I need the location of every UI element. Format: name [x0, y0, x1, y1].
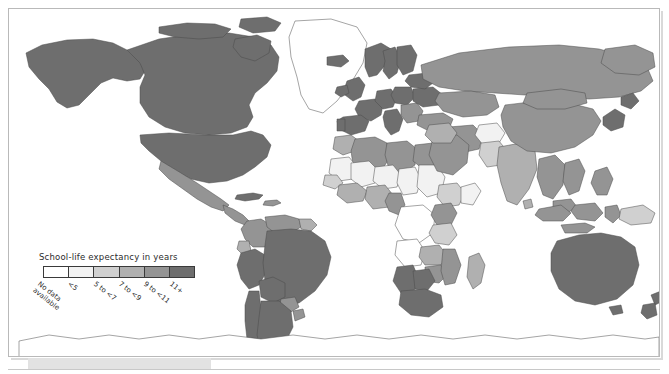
region-kazakhstan[interactable]	[435, 91, 499, 117]
region-kenya-uganda[interactable]	[431, 203, 457, 225]
region-drc[interactable]	[395, 205, 435, 243]
legend-label-group: No dataavailable <5 5 to <7 7 to <9 9 to…	[43, 278, 195, 324]
region-new-zealand-south[interactable]	[641, 303, 657, 319]
region-new-zealand-north[interactable]	[651, 291, 660, 305]
region-finland[interactable]	[397, 45, 417, 75]
region-tasmania[interactable]	[609, 305, 623, 315]
region-australia[interactable]	[551, 233, 639, 305]
region-guyanas[interactable]	[299, 219, 317, 231]
legend-swatch-no-data[interactable]	[44, 267, 69, 277]
region-arctic-islands[interactable]	[159, 23, 231, 39]
region-alaska[interactable]	[26, 39, 145, 108]
region-iraq-syria[interactable]	[425, 123, 457, 143]
legend-label-11-plus: 11+	[168, 280, 185, 295]
region-south-africa[interactable]	[399, 289, 443, 317]
region-poland[interactable]	[391, 87, 415, 105]
bottom-rule	[8, 369, 660, 370]
region-papua-new-guinea[interactable]	[619, 205, 655, 225]
region-indonesia-sulawesi[interactable]	[605, 205, 621, 223]
region-mozambique[interactable]	[441, 249, 461, 285]
legend-label-5-to-7: 5 to <7	[92, 280, 118, 302]
legend-title: School-life expectancy in years	[35, 252, 211, 262]
region-madagascar[interactable]	[467, 253, 485, 289]
legend-label-7-to-9: 7 to <9	[117, 280, 143, 302]
region-myanmar-thailand[interactable]	[537, 155, 565, 199]
region-portugal[interactable]	[337, 119, 345, 131]
region-indonesia-borneo[interactable]	[571, 203, 603, 221]
legend-label-under-5: <5	[66, 280, 79, 293]
legend-swatch-5-to-7[interactable]	[94, 267, 119, 277]
region-united-states[interactable]	[140, 131, 271, 183]
legend-swatch-11-plus[interactable]	[170, 267, 194, 277]
map-plate: School-life expectancy in years No dataa…	[8, 8, 660, 357]
region-indonesia-java[interactable]	[561, 223, 595, 233]
region-italy[interactable]	[383, 109, 403, 135]
region-ellesmere[interactable]	[239, 17, 281, 33]
legend-label-9-to-11: 9 to <11	[142, 280, 171, 305]
region-sri-lanka[interactable]	[523, 199, 533, 209]
legend-swatch-strip	[43, 266, 195, 278]
region-central-america[interactable]	[223, 205, 249, 225]
region-vietnam[interactable]	[563, 159, 585, 195]
region-cuba[interactable]	[235, 193, 263, 201]
region-hispaniola[interactable]	[263, 200, 281, 206]
region-korea-japan[interactable]	[603, 109, 625, 131]
legend-label-no-data: No dataavailable	[31, 280, 66, 312]
region-tanzania[interactable]	[429, 223, 457, 245]
region-india[interactable]	[497, 143, 537, 205]
legend-swatch-7-to-9[interactable]	[120, 267, 145, 277]
legend-swatch-9-to-11[interactable]	[145, 267, 170, 277]
world-map-figure: School-life expectancy in years No dataa…	[0, 0, 669, 374]
region-philippines[interactable]	[591, 167, 613, 195]
map-legend: School-life expectancy in years No dataa…	[35, 252, 211, 330]
region-antarctica[interactable]	[19, 335, 659, 357]
region-uruguay[interactable]	[293, 309, 305, 321]
region-somalia[interactable]	[461, 183, 481, 205]
legend-swatch-under-5[interactable]	[69, 267, 94, 277]
